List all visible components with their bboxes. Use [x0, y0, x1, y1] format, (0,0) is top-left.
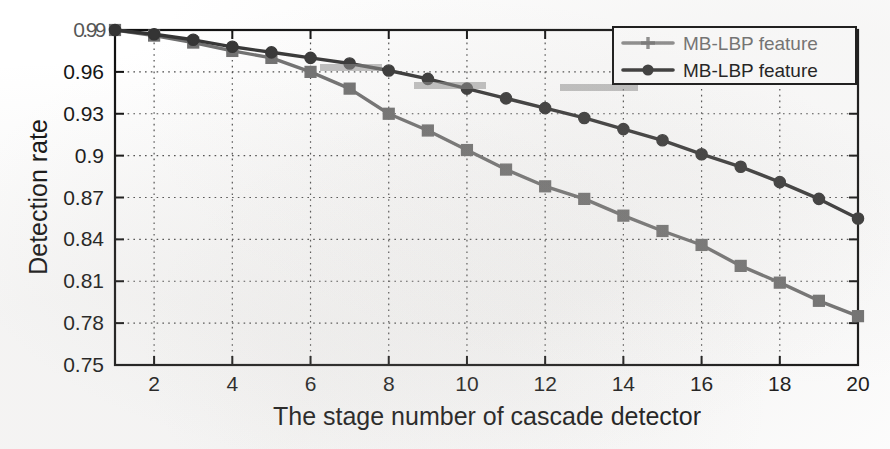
data-point-marker — [774, 177, 785, 188]
data-point-marker — [813, 295, 824, 306]
data-point-marker — [774, 277, 785, 288]
data-point-marker — [501, 164, 512, 175]
data-point-marker — [852, 213, 863, 224]
legend-marker-swatch — [642, 64, 653, 75]
x-tick-label: 14 — [612, 372, 636, 395]
x-tick-label: 10 — [455, 372, 478, 395]
x-tick-label: 8 — [383, 372, 395, 395]
x-tick-label: 6 — [305, 372, 317, 395]
data-point-marker — [188, 34, 199, 45]
data-point-marker — [305, 66, 316, 77]
y-tick-label: 0.9 — [75, 144, 104, 167]
chart-legend: MB-LBP featureMB-LBP feature — [613, 27, 856, 84]
data-point-marker — [657, 226, 668, 237]
data-point-marker — [735, 161, 746, 172]
chart-figure: Detection rate The stage number of casca… — [0, 0, 890, 449]
data-point-marker — [735, 260, 746, 271]
data-point-marker — [305, 52, 316, 63]
data-point-marker — [813, 193, 824, 204]
x-tick-label: 18 — [768, 372, 791, 395]
y-tick-label: 0.78 — [63, 311, 104, 334]
data-point-marker — [462, 145, 473, 156]
data-point-marker — [383, 65, 394, 76]
data-point-marker — [696, 149, 707, 160]
data-point-marker — [579, 193, 590, 204]
data-point-marker — [579, 112, 590, 123]
data-point-marker — [696, 240, 707, 251]
legend-label: MB-LBP feature — [683, 33, 818, 54]
scan-smudge — [414, 82, 486, 89]
y-tick-label: 0.87 — [63, 186, 104, 209]
data-point-marker — [657, 135, 668, 146]
legend-label: MB-LBP feature — [683, 60, 818, 81]
y-tick-label: 0.75 — [63, 353, 104, 376]
scan-smudge — [320, 64, 382, 71]
x-tick-label: 20 — [846, 372, 869, 395]
x-tick-label: 2 — [148, 372, 160, 395]
data-point-marker — [618, 124, 629, 135]
data-point-marker — [422, 125, 433, 136]
y-tick-label: 0.81 — [63, 269, 104, 292]
data-point-marker — [344, 83, 355, 94]
x-tick-label: 4 — [226, 372, 238, 395]
y-tick-label: 0.84 — [63, 227, 104, 250]
data-point-marker — [618, 210, 629, 221]
data-point-marker — [853, 311, 864, 322]
data-point-marker — [540, 181, 551, 192]
data-point-marker — [149, 29, 160, 40]
data-point-marker — [227, 41, 238, 52]
scan-smudge — [560, 84, 638, 91]
x-tick-label: 16 — [690, 372, 713, 395]
detection-rate-line-chart: Detection rate The stage number of casca… — [0, 0, 890, 449]
x-axis-title: The stage number of cascade detector — [273, 402, 701, 430]
data-point-marker — [500, 93, 511, 104]
y-tick-label: 0.96 — [63, 60, 104, 83]
y-axis-title: Detection rate — [24, 119, 52, 275]
data-point-marker — [540, 103, 551, 114]
y-tick-label: 0.93 — [63, 102, 104, 125]
data-point-marker — [266, 47, 277, 58]
y-tick-label: 0.99 — [73, 18, 106, 41]
data-point-marker — [109, 24, 120, 35]
x-tick-label: 12 — [533, 372, 556, 395]
data-point-marker — [383, 108, 394, 119]
